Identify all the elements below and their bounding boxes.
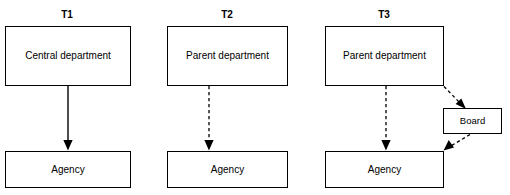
diagram-canvas: T1 T2 T3 Central department Agency Paren… <box>0 0 510 195</box>
column-label-t2: T2 <box>197 9 257 21</box>
node-label: Agency <box>368 164 401 176</box>
node-t3-parent-department: Parent department <box>325 26 444 86</box>
clipped-caption-text <box>0 0 510 2</box>
column-label-t3: T3 <box>354 9 414 21</box>
node-label: Central department <box>25 50 111 62</box>
node-label: Parent department <box>343 50 426 62</box>
edge-t3-parent-department-to-agency-arrowhead <box>381 140 390 151</box>
edge-t2-parent-department-to-agency-arrowhead <box>204 140 213 151</box>
node-t2-parent-department: Parent department <box>167 26 288 86</box>
node-label: Agency <box>211 164 244 176</box>
edge-t3-board-to-agency-line <box>450 135 470 147</box>
node-t3-board: Board <box>443 108 502 134</box>
node-label: Parent department <box>186 50 269 62</box>
edge-t1-central-department-to-agency-arrowhead <box>63 140 72 151</box>
node-label: Agency <box>51 164 84 176</box>
node-t2-agency: Agency <box>167 151 288 188</box>
node-t1-central-department: Central department <box>5 26 131 86</box>
column-label-t1: T1 <box>37 9 97 21</box>
node-t1-agency: Agency <box>5 151 131 188</box>
node-label: Board <box>460 115 485 127</box>
edge-t3-parent-department-to-board-line <box>444 87 462 105</box>
edge-t3-board-to-agency-arrowhead <box>444 140 454 150</box>
node-t3-agency: Agency <box>325 151 444 188</box>
